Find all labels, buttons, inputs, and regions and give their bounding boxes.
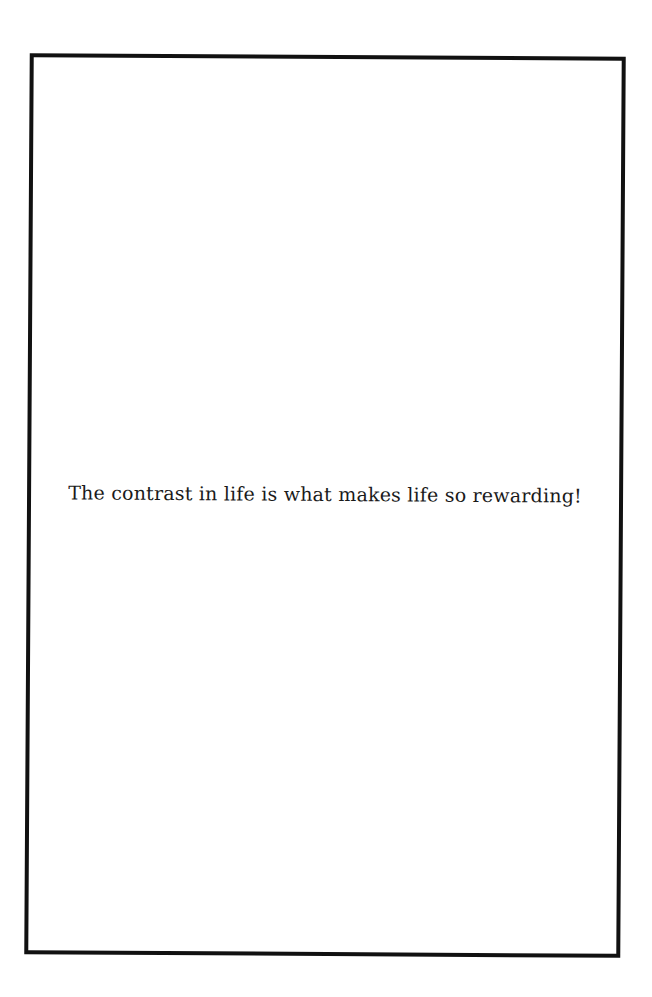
quote-text: The contrast in life is what makes life …	[31, 481, 619, 507]
page-border-frame: The contrast in life is what makes life …	[24, 53, 625, 958]
